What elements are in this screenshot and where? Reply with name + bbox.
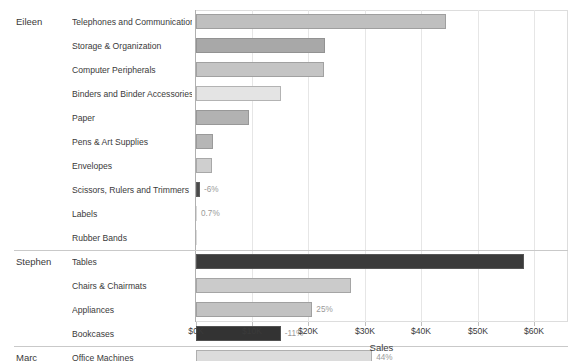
bar-value-label: -6%: [204, 182, 219, 197]
bar-value-label: 0.7%: [201, 206, 220, 221]
group-label-eileen: Eileen: [16, 10, 72, 34]
chart-row[interactable]: EileenTelephones and Communication: [0, 10, 585, 34]
chart-row[interactable]: Paper: [0, 106, 585, 130]
x-tick-label: $30K: [355, 326, 375, 336]
category-label: Storage & Organization: [72, 34, 192, 58]
bar[interactable]: [196, 110, 249, 125]
x-tick-label: $40K: [411, 326, 431, 336]
bar[interactable]: [196, 230, 198, 245]
chart-row[interactable]: Binders and Binder Accessories: [0, 82, 585, 106]
bar[interactable]: [196, 14, 446, 29]
category-label: Office Machines: [72, 346, 192, 361]
bar[interactable]: [196, 326, 281, 341]
x-tick-label: $0K: [188, 326, 203, 336]
group-divider: [14, 250, 568, 251]
bar[interactable]: [196, 134, 213, 149]
bar[interactable]: [196, 254, 524, 269]
category-label: Labels: [72, 202, 192, 226]
chart-row[interactable]: Pens & Art Supplies: [0, 130, 585, 154]
bar[interactable]: [196, 86, 282, 101]
group-label-marc: Marc: [16, 346, 72, 361]
chart-row[interactable]: Envelopes: [0, 154, 585, 178]
category-label: Tables: [72, 250, 192, 274]
x-tick-label: $10K: [242, 326, 262, 336]
bar[interactable]: [196, 158, 212, 173]
category-label: Bookcases: [72, 322, 192, 346]
category-label: Telephones and Communication: [72, 10, 192, 34]
category-label: Computer Peripherals: [72, 58, 192, 82]
x-tick-label: $60K: [524, 326, 544, 336]
bar[interactable]: [196, 38, 325, 53]
category-label: Pens & Art Supplies: [72, 130, 192, 154]
chart-row[interactable]: Scissors, Rulers and Trimmers-6%: [0, 178, 585, 202]
category-label: Appliances: [72, 298, 192, 322]
chart-row[interactable]: Appliances25%: [0, 298, 585, 322]
x-axis-title: Sales: [195, 342, 568, 353]
category-label: Binders and Binder Accessories: [72, 82, 192, 106]
category-label: Paper: [72, 106, 192, 130]
chart-row[interactable]: StephenTables: [0, 250, 585, 274]
bar[interactable]: [196, 62, 324, 77]
category-label: Envelopes: [72, 154, 192, 178]
bar[interactable]: [196, 278, 351, 293]
chart-row[interactable]: Storage & Organization: [0, 34, 585, 58]
x-tick-label: $50K: [468, 326, 488, 336]
bar[interactable]: [196, 182, 201, 197]
chart-row[interactable]: Labels0.7%: [0, 202, 585, 226]
chart-row[interactable]: Computer Peripherals: [0, 58, 585, 82]
chart-row[interactable]: Rubber Bands: [0, 226, 585, 250]
sales-bar-chart: EileenTelephones and CommunicationStorag…: [0, 0, 585, 361]
group-label-stephen: Stephen: [16, 250, 72, 274]
category-label: Chairs & Chairmats: [72, 274, 192, 298]
chart-row[interactable]: Chairs & Chairmats: [0, 274, 585, 298]
category-label: Rubber Bands: [72, 226, 192, 250]
bar[interactable]: [196, 302, 313, 317]
bar-value-label: 25%: [316, 302, 332, 317]
category-label: Scissors, Rulers and Trimmers: [72, 178, 192, 202]
bar[interactable]: [196, 206, 198, 221]
x-tick-label: $20K: [298, 326, 318, 336]
